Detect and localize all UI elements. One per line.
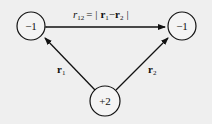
charge-right: −1 xyxy=(168,12,196,40)
r1-label: r1 xyxy=(57,63,66,77)
charge-bottom: +2 xyxy=(90,86,120,116)
charge-diagram: −1 −1 +2 r12= |r1−r2| r1 r2 xyxy=(0,0,212,124)
charge-bottom-label: +2 xyxy=(99,95,111,107)
charge-left: −1 xyxy=(17,12,45,40)
charge-left-label: −1 xyxy=(25,20,37,32)
r2-arrow xyxy=(116,38,168,90)
r12-label: r12= |r1−r2| xyxy=(73,8,129,22)
r1-arrow xyxy=(45,38,95,90)
charge-right-label: −1 xyxy=(176,20,188,32)
r2-label: r2 xyxy=(148,63,157,77)
